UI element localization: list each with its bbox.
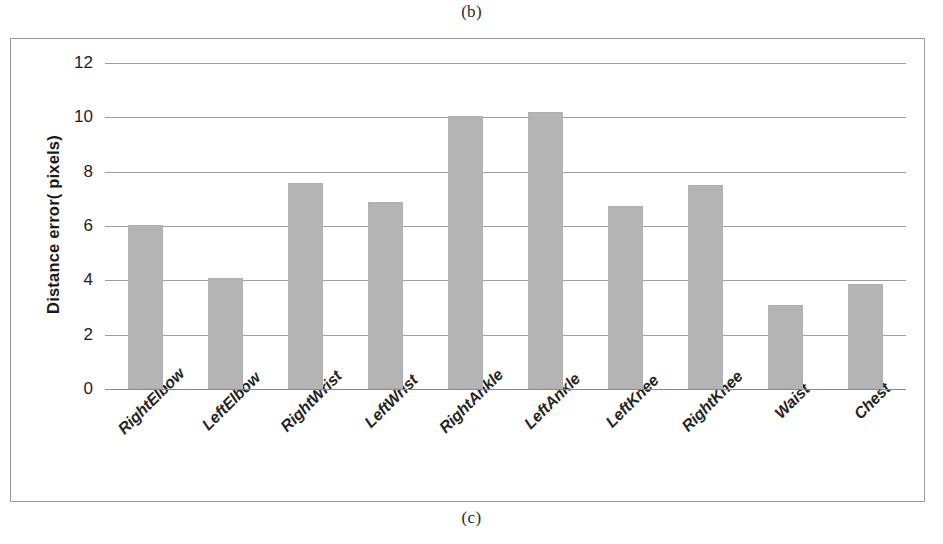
bar-leftankle <box>528 112 563 389</box>
bar-waist <box>768 305 803 389</box>
y-tick-label-8: 8 <box>84 162 93 182</box>
x-slot-waist: Waist <box>746 391 826 496</box>
y-axis-title: Distance error( pixels) <box>44 105 63 345</box>
bar-slot-rightelbow <box>105 63 185 389</box>
y-tick-label-2: 2 <box>84 325 93 345</box>
bar-leftelbow <box>208 278 243 389</box>
bar-slot-chest <box>826 63 906 389</box>
bar-slot-leftwrist <box>345 63 425 389</box>
x-axis-labels: RightElbowLeftElbowRightWristLeftWristRi… <box>105 391 906 496</box>
y-tick-label-4: 4 <box>84 270 93 290</box>
bar-slot-leftankle <box>505 63 585 389</box>
chart-frame: Distance error( pixels) 121086420 RightE… <box>10 38 925 502</box>
bar-series <box>105 63 906 389</box>
bar-slot-leftelbow <box>185 63 265 389</box>
bar-slot-leftknee <box>586 63 666 389</box>
x-slot-rightknee: RightKnee <box>666 391 746 496</box>
bar-rightelbow <box>128 225 163 389</box>
bar-leftwrist <box>368 202 403 389</box>
x-slot-rightelbow: RightElbow <box>105 391 185 496</box>
y-tick-label-10: 10 <box>74 107 93 127</box>
x-slot-chest: Chest <box>826 391 906 496</box>
figure-caption-b: (b) <box>0 2 943 22</box>
y-tick-label-0: 0 <box>84 379 93 399</box>
x-slot-leftankle: LeftAnkle <box>505 391 585 496</box>
gridline-0: 0 <box>105 389 906 390</box>
figure-caption-c: (c) <box>0 508 943 528</box>
x-slot-rightwrist: RightWrist <box>265 391 345 496</box>
x-slot-leftelbow: LeftElbow <box>185 391 265 496</box>
x-slot-leftwrist: LeftWrist <box>345 391 425 496</box>
bar-slot-rightwrist <box>265 63 345 389</box>
bar-leftknee <box>608 206 643 389</box>
bar-chest <box>848 284 883 389</box>
bar-rightwrist <box>288 183 323 389</box>
plot-area: 121086420 <box>105 63 906 389</box>
bar-rightankle <box>448 116 483 389</box>
x-slot-rightankle: RightAnkle <box>425 391 505 496</box>
bar-slot-waist <box>746 63 826 389</box>
x-slot-leftknee: LeftKnee <box>586 391 666 496</box>
bar-rightknee <box>688 185 723 389</box>
bar-slot-rightankle <box>425 63 505 389</box>
y-tick-label-6: 6 <box>84 216 93 236</box>
bar-slot-rightknee <box>666 63 746 389</box>
y-tick-label-12: 12 <box>74 53 93 73</box>
